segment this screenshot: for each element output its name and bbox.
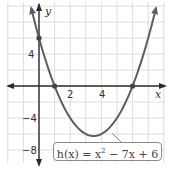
- y-tick-neg4: −4: [22, 113, 37, 124]
- marked-point: [130, 83, 135, 88]
- y-tick-neg8: −8: [22, 145, 37, 156]
- x-axis-label: x: [155, 88, 162, 101]
- y-axis-label: y: [44, 5, 52, 18]
- marked-point: [36, 35, 41, 40]
- marked-point: [52, 83, 57, 88]
- formula-prefix: h(x) = x: [57, 148, 101, 161]
- x-tick-2: 2: [67, 89, 73, 100]
- x-tick-4: 4: [99, 89, 105, 100]
- curve-left-arrow-icon: [29, 6, 36, 15]
- parabola-curve: [31, 8, 156, 136]
- y-axis-up-arrow-icon: [36, 3, 42, 11]
- function-label-callout: h(x) = x2 − 7x + 6: [53, 142, 162, 161]
- grid: [8, 2, 165, 163]
- x-axis-left-arrow-icon: [6, 83, 14, 89]
- formula-suffix: − 7x + 6: [106, 148, 159, 161]
- y-tick-4: 4: [28, 49, 34, 60]
- curve-right-arrow-icon: [151, 6, 158, 15]
- y-axis-down-arrow-icon: [36, 159, 42, 167]
